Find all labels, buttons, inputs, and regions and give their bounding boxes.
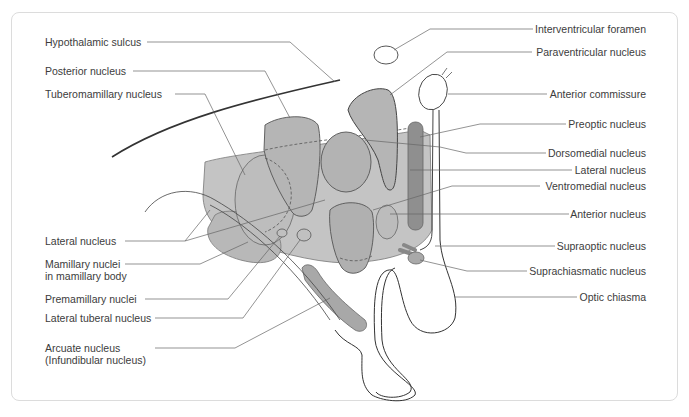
anterior-nucleus-shape [376, 205, 398, 239]
label-lateral-tuberal-nucleus: Lateral tuberal nucleus [45, 312, 151, 324]
label-arcuate-nucleus-line2: (Infundibular nucleus) [45, 354, 146, 366]
lateral-tuberal-shape [297, 229, 311, 241]
label-lateral-nucleus-left: Lateral nucleus [45, 235, 116, 247]
label-arcuate-nucleus: Arcuate nucleus [45, 342, 120, 354]
label-mamillary-nuclei: Mamillary nuclei [45, 258, 120, 270]
label-suprachiasmatic-nucleus: Suprachiasmatic nucleus [529, 265, 646, 277]
dorsomedial-nucleus-shape [321, 132, 371, 192]
arcuate-nucleus-shape [302, 265, 367, 331]
label-mamillary-nuclei-line2: in mamillary body [45, 270, 127, 282]
label-premamillary-nuclei: Premamillary nuclei [45, 293, 137, 305]
label-hypothalamic-sulcus: Hypothalamic sulcus [45, 36, 141, 48]
label-ventromedial-nucleus: Ventromedial nucleus [546, 180, 646, 192]
suprachiasmatic-shape [408, 252, 424, 264]
label-preoptic-nucleus: Preoptic nucleus [568, 118, 646, 130]
label-interventricular-foramen: Interventricular foramen [535, 23, 646, 35]
label-dorsomedial-nucleus: Dorsomedial nucleus [548, 147, 646, 159]
label-posterior-nucleus: Posterior nucleus [45, 65, 126, 77]
label-anterior-nucleus: Anterior nucleus [570, 208, 646, 220]
label-anterior-commissure: Anterior commissure [550, 88, 646, 100]
label-tuberomamillary-nucleus: Tuberomamillary nucleus [45, 88, 162, 100]
label-lateral-nucleus-right: Lateral nucleus [575, 164, 646, 176]
label-supraoptic-nucleus: Supraoptic nucleus [557, 240, 646, 252]
interventricular-foramen-shape [374, 46, 398, 64]
anterior-commissure-shape [415, 71, 451, 113]
premamillary-shape [277, 229, 287, 237]
label-optic-chiasma: Optic chiasma [579, 291, 646, 303]
label-paraventricular-nucleus: Paraventricular nucleus [536, 46, 646, 58]
